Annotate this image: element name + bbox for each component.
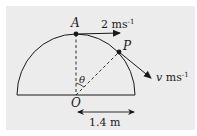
label-theta: θ xyxy=(79,74,85,85)
label-velocity-P: v ms-1 xyxy=(156,71,189,84)
label-O: O xyxy=(71,96,81,110)
label-velocity-A: 2 ms-1 xyxy=(101,18,134,31)
velocity-arrow-P xyxy=(119,52,151,78)
semicircle-diagram: A P O θ 2 ms-1 v ms-1 1.4 m xyxy=(0,0,197,136)
label-P: P xyxy=(122,39,132,53)
point-A xyxy=(74,32,79,37)
point-P xyxy=(117,50,122,55)
velocity-arrow-A xyxy=(76,33,120,34)
label-radius-length: 1.4 m xyxy=(89,116,121,129)
label-A: A xyxy=(70,16,80,30)
